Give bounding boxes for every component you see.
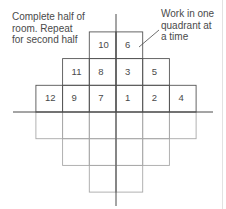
tile-order-label: 3	[125, 66, 130, 77]
tile-order-label: 9	[72, 92, 77, 103]
left-note-line-2: room. Repeat	[12, 23, 85, 35]
tile-order-label: 1	[125, 92, 130, 103]
unnumbered-tile	[89, 139, 116, 166]
right-note-line-3: a time	[161, 31, 214, 43]
tile-order-label: 10	[98, 39, 109, 50]
unnumbered-tile	[63, 112, 90, 139]
unnumbered-tile	[63, 139, 90, 166]
tile-order-labels: 106118351297124	[45, 39, 184, 103]
left-note-line-3: for second half	[12, 34, 85, 46]
unnumbered-tile	[143, 139, 170, 166]
tile-order-label: 8	[98, 66, 103, 77]
pointer-line	[139, 30, 159, 47]
unnumbered-tile	[36, 112, 63, 139]
unnumbered-tile	[116, 139, 143, 166]
tile-order-label: 2	[152, 92, 157, 103]
right-note-line-1: Work in one	[161, 8, 214, 20]
unnumbered-tile	[143, 112, 170, 139]
left-instruction-note: Complete half of room. Repeat for second…	[12, 11, 85, 46]
tile-order-label: 4	[178, 92, 183, 103]
right-note-line-2: quadrant at	[161, 20, 214, 32]
unnumbered-tile	[116, 112, 143, 139]
tile-order-label: 6	[125, 39, 130, 50]
left-note-line-1: Complete half of	[12, 11, 85, 23]
tile-layout-diagram: 106118351297124 Complete half of room. R…	[0, 0, 226, 209]
tile-order-label: 5	[152, 66, 157, 77]
tile-order-label: 12	[45, 92, 56, 103]
unnumbered-tile	[116, 165, 143, 192]
tile-order-label: 7	[98, 92, 103, 103]
right-instruction-note: Work in one quadrant at a time	[161, 8, 214, 43]
unnumbered-tile	[89, 112, 116, 139]
unnumbered-tile	[89, 165, 116, 192]
unnumbered-tile	[169, 112, 196, 139]
tile-order-label: 11	[72, 66, 82, 77]
